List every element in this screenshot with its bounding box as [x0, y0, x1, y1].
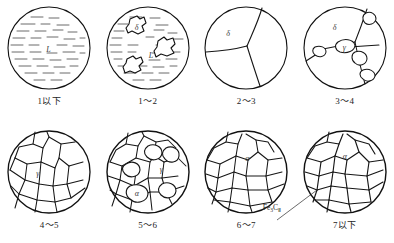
panel-8-svg [301, 128, 389, 216]
panel-8: α 7以下 Fe3CⅡ [299, 128, 391, 231]
panel-1: L 1以下 [3, 4, 95, 107]
panel-7: α 6～7 [200, 128, 292, 231]
microstructure-figure: L 1以下 [0, 0, 394, 243]
panel-4-stage-label: 3～4 [335, 96, 354, 107]
panel-4-disc: δ γ [301, 4, 389, 92]
panel-1-svg [5, 4, 93, 92]
panel-1-stage-label: 1以下 [38, 96, 61, 107]
panel-2-svg [104, 4, 192, 92]
panel-2-disc: δ L [104, 4, 192, 92]
panel-4: δ γ 3～4 [299, 4, 391, 107]
panel-1-disc: L [5, 4, 93, 92]
panel-6-stage-label: 5～6 [138, 220, 157, 231]
panel-7-stage-label: 6～7 [237, 220, 256, 231]
panel-5-svg [5, 128, 93, 216]
microstructure-row-top: L 1以下 [0, 4, 394, 122]
panel-3-disc: δ [202, 4, 290, 92]
panel-3-stage-label: 2～3 [237, 96, 256, 107]
cementite-annotation: Fe3CⅡ [263, 204, 281, 212]
panel-5: γ 4～5 [3, 128, 95, 231]
panel-8-stage-label: 7以下 [333, 220, 356, 231]
panel-3-svg [202, 4, 290, 92]
panel-6-svg [104, 128, 192, 216]
panel-4-svg [301, 4, 389, 92]
cementite-formula-roman: Ⅱ [278, 207, 281, 213]
panel-2: δ L 1～2 [102, 4, 194, 107]
panel-2-stage-label: 1～2 [138, 96, 157, 107]
panel-5-stage-label: 4～5 [40, 220, 59, 231]
panel-6-disc: γ α [104, 128, 192, 216]
panel-6: γ α 5～6 [102, 128, 194, 231]
panel-8-disc: α [301, 128, 389, 216]
panel-3: δ 2～3 [200, 4, 292, 107]
microstructure-row-bottom: γ 4～5 [0, 128, 394, 243]
cementite-formula-subscript: 3 [270, 207, 273, 213]
panel-5-disc: γ [5, 128, 93, 216]
